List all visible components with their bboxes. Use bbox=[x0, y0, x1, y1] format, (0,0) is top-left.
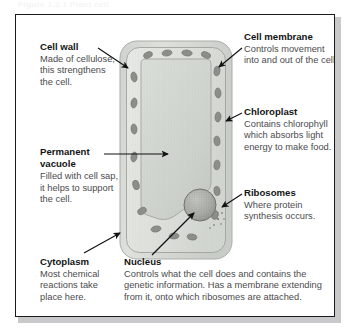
label-chloroplast: Chloroplast Contains chlorophyll which a… bbox=[244, 106, 335, 153]
label-cell-wall-body: Made of cellulose, this strengthens the … bbox=[40, 54, 118, 88]
label-permanent-vacuole: Permanent vacuole Filled with cell sap, … bbox=[40, 146, 120, 206]
label-ribosomes-heading: Ribosomes bbox=[244, 187, 335, 199]
label-chloroplast-body: Contains chlorophyll which absorbs light… bbox=[244, 119, 335, 153]
label-cell-wall-heading: Cell wall bbox=[40, 41, 118, 53]
label-cytoplasm: Cytoplasm Most chemical reactions take p… bbox=[40, 256, 122, 303]
label-nucleus: Nucleus Controls what the cell does and … bbox=[124, 256, 335, 303]
figure-caption-cropped: Figure 1.2.1 Plant cell bbox=[18, 0, 228, 9]
label-chloroplast-heading: Chloroplast bbox=[244, 106, 335, 118]
label-permanent-vacuole-heading: Permanent vacuole bbox=[40, 146, 120, 171]
figure-panel: Cell wall Made of cellulose, this streng… bbox=[15, 14, 335, 317]
label-ribosomes: Ribosomes Where protein synthesis occurs… bbox=[244, 187, 335, 223]
label-cell-membrane-body: Controls movement into and out of the ce… bbox=[244, 44, 335, 67]
label-cytoplasm-body: Most chemical reactions take place here. bbox=[40, 269, 122, 303]
label-nucleus-body: Controls what the cell does and contains… bbox=[124, 269, 335, 303]
label-ribosomes-body: Where protein synthesis occurs. bbox=[244, 200, 335, 223]
nucleus-shape bbox=[184, 189, 216, 221]
label-cell-membrane-heading: Cell membrane bbox=[244, 31, 335, 43]
label-cell-membrane: Cell membrane Controls movement into and… bbox=[244, 31, 335, 67]
label-cell-wall: Cell wall Made of cellulose, this streng… bbox=[40, 41, 118, 88]
label-cytoplasm-heading: Cytoplasm bbox=[40, 256, 122, 268]
label-nucleus-heading: Nucleus bbox=[124, 256, 335, 268]
label-permanent-vacuole-body: Filled with cell sap, it helps to suppor… bbox=[40, 171, 120, 205]
plant-cell-figure: Figure 1.2.1 Plant cell bbox=[0, 0, 347, 334]
plant-cell-illustration bbox=[114, 33, 238, 266]
